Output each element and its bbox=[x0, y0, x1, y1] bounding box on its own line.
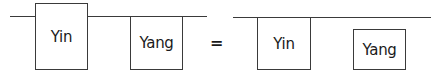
yin-label: Yin bbox=[273, 35, 294, 53]
yang-box-left: Yang bbox=[130, 16, 183, 70]
yang-label: Yang bbox=[139, 34, 173, 52]
yin-label: Yin bbox=[51, 28, 72, 46]
yang-box-right: Yang bbox=[353, 29, 406, 70]
yin-box-left: Yin bbox=[35, 3, 88, 70]
left-bar-line-start bbox=[10, 16, 36, 17]
equals-sign: = bbox=[210, 33, 223, 52]
yin-box-right: Yin bbox=[257, 17, 311, 70]
yang-label: Yang bbox=[362, 41, 396, 59]
